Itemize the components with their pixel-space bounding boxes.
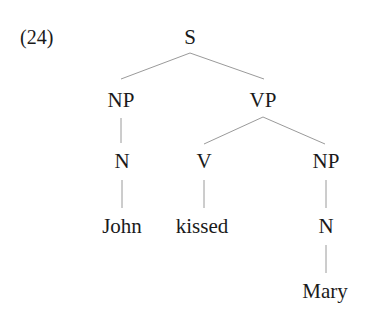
tree-node-NP2: NP <box>313 151 340 172</box>
tree-node-S: S <box>184 27 196 48</box>
tree-edge-S-VP <box>190 53 264 79</box>
tree-node-V: V <box>196 151 211 172</box>
tree-node-VP: VP <box>250 90 277 111</box>
tree-node-N1: N <box>114 151 129 172</box>
tree-edge-VP-NP2 <box>263 117 325 144</box>
tree-edge-VP-V <box>204 117 263 144</box>
tree-edge-S-NP1 <box>121 53 190 79</box>
tree-node-kissed: kissed <box>176 216 229 237</box>
tree-node-Mary: Mary <box>302 281 348 302</box>
tree-node-John: John <box>102 216 142 237</box>
tree-node-NP1: NP <box>108 90 135 111</box>
tree-node-N2: N <box>318 216 333 237</box>
